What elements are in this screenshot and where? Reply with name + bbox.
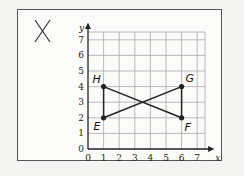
x-tick-label: 3 <box>132 153 138 163</box>
y-tick-label: 4 <box>78 82 84 92</box>
point-label-F: F <box>185 121 192 134</box>
x-axis-arrow-icon <box>208 146 214 152</box>
x-axis-label: x <box>215 153 220 163</box>
x-tick-label: 0 <box>85 153 91 163</box>
point-G <box>179 84 184 89</box>
point-F <box>179 115 184 120</box>
y-tick-label: 6 <box>78 50 84 60</box>
y-axis-label: y <box>78 23 85 33</box>
x-tick-label: 2 <box>116 153 122 163</box>
y-tick-label: 5 <box>78 66 84 76</box>
x-tick-label: 5 <box>163 153 169 163</box>
y-tick-label: 0 <box>78 144 84 154</box>
point-label-H: H <box>93 73 101 86</box>
x-tick-label: 6 <box>179 153 185 163</box>
coordinate-plane: 0123456701234567xyHEGF <box>0 0 244 176</box>
point-label-E: E <box>94 120 101 133</box>
x-tick-label: 1 <box>101 153 107 163</box>
y-axis-arrow-icon <box>85 23 91 29</box>
point-E <box>101 115 106 120</box>
y-tick-label: 3 <box>78 97 84 107</box>
y-tick-label: 2 <box>78 113 84 123</box>
y-tick-label: 7 <box>78 35 84 45</box>
y-tick-label: 1 <box>78 128 84 138</box>
x-tick-label: 4 <box>148 153 154 163</box>
point-H <box>101 84 106 89</box>
point-label-G: G <box>186 72 195 85</box>
x-tick-label: 7 <box>194 153 200 163</box>
